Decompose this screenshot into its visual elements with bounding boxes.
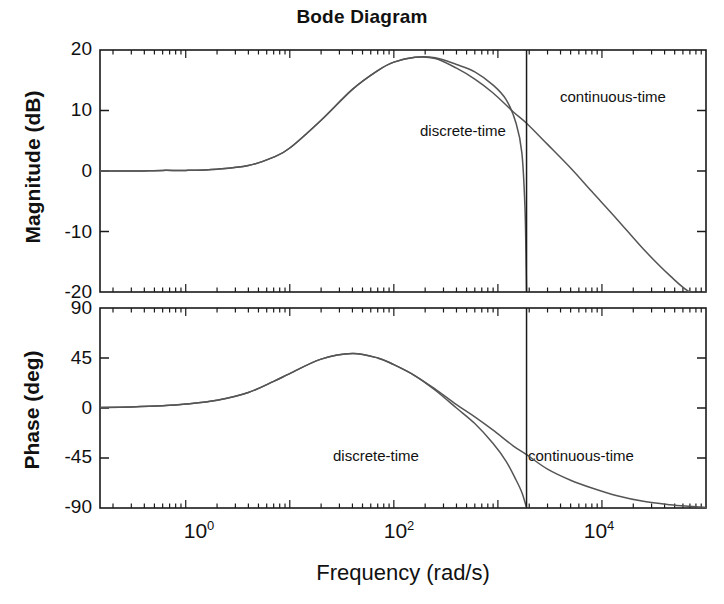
curves-group bbox=[100, 57, 706, 293]
phase-panel bbox=[100, 308, 706, 508]
curves-group bbox=[100, 354, 706, 508]
curve-discrete-time bbox=[100, 354, 527, 508]
curve-continuous-time bbox=[100, 354, 706, 508]
curve-continuous-time bbox=[100, 57, 706, 293]
plot-frame bbox=[100, 308, 706, 508]
curve-discrete-time bbox=[100, 57, 527, 292]
magnitude-panel bbox=[100, 50, 706, 293]
bode-plot-canvas bbox=[0, 0, 724, 604]
bode-diagram-figure: Bode Diagram Magnitude (dB) Phase (deg) … bbox=[0, 0, 724, 604]
